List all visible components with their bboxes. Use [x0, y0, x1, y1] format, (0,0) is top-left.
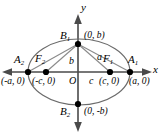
x-axis-label: x	[153, 64, 158, 75]
point-label-B2: B2	[60, 106, 70, 117]
segment-label-b: b	[69, 56, 74, 66]
point-label-A1-name: A	[128, 53, 135, 65]
point-F2	[43, 69, 49, 75]
point-coord-A1: (a, 0)	[129, 77, 150, 87]
x-axis-arrow-left	[2, 68, 12, 76]
point-coord-B1: (0, b)	[84, 31, 105, 41]
point-B1	[75, 41, 81, 47]
point-label-A1-sub: 1	[135, 59, 138, 66]
point-label-F2-name: F	[35, 52, 42, 64]
y-axis-label: y	[81, 2, 86, 13]
point-label-A1: A1	[128, 54, 138, 65]
point-label-F1-name: F	[103, 52, 110, 64]
point-label-B1-sub: 1	[67, 35, 70, 42]
diagram-canvas	[0, 0, 164, 136]
y-axis	[74, 14, 82, 132]
point-label-A2-sub: 2	[21, 59, 24, 66]
point-label-B1: B1	[60, 30, 70, 41]
marked-points	[25, 41, 133, 107]
point-B2	[75, 101, 81, 107]
ellipse-diagram: y x B1 (0, b) B2 (0, -b) A2 (-a, 0) F2 (…	[0, 0, 164, 136]
x-axis-arrow-right	[142, 68, 152, 76]
point-label-F1: F1	[103, 53, 113, 64]
point-coord-A2: (-a, 0)	[1, 77, 25, 87]
point-F1	[107, 69, 113, 75]
origin-label: O	[69, 76, 76, 86]
point-coord-F1: (c, 0)	[99, 77, 119, 87]
point-label-B1-name: B	[60, 29, 67, 41]
point-label-F2-sub: 2	[42, 58, 45, 65]
point-A2	[25, 69, 31, 75]
segment-label-c: c	[89, 76, 93, 86]
point-label-B2-name: B	[60, 105, 67, 117]
point-label-F2: F2	[35, 53, 45, 64]
point-label-A2: A2	[14, 54, 24, 65]
point-label-F1-sub: 1	[110, 58, 113, 65]
y-axis-arrow-down	[74, 122, 82, 132]
point-coord-B2: (0, -b)	[84, 107, 108, 117]
point-label-B2-sub: 2	[67, 111, 70, 118]
point-A1	[127, 69, 133, 75]
segment-label-a: a	[97, 52, 102, 62]
point-coord-F2: (-c, 0)	[32, 77, 55, 87]
y-axis-arrow-up	[74, 14, 82, 24]
point-label-A2-name: A	[14, 53, 21, 65]
